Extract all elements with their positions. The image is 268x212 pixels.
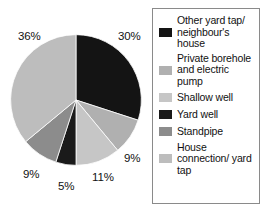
pie-label-shallow-well: 11% <box>92 171 114 183</box>
legend-swatch-icon-3 <box>159 110 172 119</box>
legend-swatch-icon-2 <box>159 93 172 102</box>
pie-slice-group <box>11 35 142 166</box>
pie-label-yard-well: 5% <box>58 180 74 192</box>
legend-label-1: Private borehole and electric pump <box>177 53 255 88</box>
pie-plot-area: 30%9%11%5%9%36% <box>0 0 152 212</box>
legend-swatch-icon-1 <box>159 66 172 75</box>
legend-item-0[interactable]: Other yard tap/ neighbour's house <box>157 15 255 50</box>
legend-label-5: House connection/ yard tap <box>177 142 255 177</box>
chart-legend: Other yard tap/ neighbour's housePrivate… <box>152 8 260 204</box>
pie-label-house-connection: 36% <box>18 30 41 42</box>
legend-swatch-icon-4 <box>159 127 172 136</box>
legend-item-1[interactable]: Private borehole and electric pump <box>157 53 255 88</box>
pie-chart-figure: 30%9%11%5%9%36% Other yard tap/ neighbou… <box>0 0 268 212</box>
pie-label-standpipe: 9% <box>23 168 39 180</box>
legend-swatch-icon-0 <box>159 28 172 37</box>
pie-svg <box>10 25 142 175</box>
legend-label-0: Other yard tap/ neighbour's house <box>177 15 255 50</box>
legend-label-3: Yard well <box>177 109 218 121</box>
pie-label-private-borehole: 9% <box>124 152 140 164</box>
legend-item-4[interactable]: Standpipe <box>157 125 255 139</box>
legend-item-2[interactable]: Shallow well <box>157 91 255 105</box>
pie-label-other-yard-tap: 30% <box>118 30 141 42</box>
legend-item-5[interactable]: House connection/ yard tap <box>157 142 255 177</box>
legend-label-2: Shallow well <box>177 92 233 104</box>
legend-item-3[interactable]: Yard well <box>157 108 255 122</box>
legend-swatch-icon-5 <box>159 154 172 163</box>
legend-label-4: Standpipe <box>177 126 223 138</box>
